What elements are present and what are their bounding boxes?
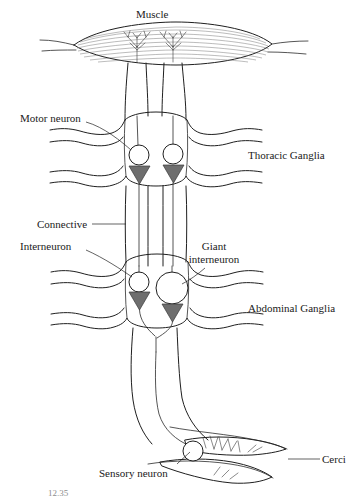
abdominal-ganglion	[51, 254, 263, 352]
interneuron-synapse	[129, 292, 150, 310]
label-cerci: Cerci	[322, 453, 346, 465]
thoracic-ganglion	[50, 112, 262, 187]
motor-neuron-soma-left	[129, 145, 149, 165]
label-giant-interneuron-line2: interneuron	[189, 253, 240, 265]
cercus-bristles-lower	[214, 467, 238, 479]
cerci-group	[148, 427, 287, 483]
neural-circuit-diagram: Muscle Motor neuron Thoracic Ganglia Con…	[0, 0, 359, 500]
sensory-neuron-soma	[183, 441, 203, 461]
label-giant-interneuron-line1: Giant	[202, 240, 226, 252]
muscle-group	[40, 22, 308, 65]
label-connective: Connective	[37, 218, 87, 230]
motor-neuron-soma-right	[163, 144, 183, 164]
motor-nerve-trunks	[125, 63, 186, 120]
neuromuscular-junction-right	[160, 31, 186, 62]
label-motor-neuron: Motor neuron	[20, 112, 81, 124]
interneuron-soma	[129, 272, 149, 292]
giant-interneuron-synapse	[162, 304, 183, 322]
giant-interneuron-soma	[156, 272, 188, 304]
muscle-tendon-right-lower	[268, 52, 306, 54]
label-sensory-neuron: Sensory neuron	[99, 467, 168, 479]
label-interneuron: Interneuron	[20, 240, 72, 252]
muscle-tendon-left	[40, 40, 74, 45]
figure-caption-number: 12.35	[48, 488, 69, 498]
figure-root: Muscle Motor neuron Thoracic Ganglia Con…	[0, 0, 359, 500]
label-muscle: Muscle	[136, 8, 169, 20]
muscle-tendon-right	[272, 41, 308, 44]
cercus-bristles	[203, 436, 262, 452]
leader-lines	[86, 122, 320, 464]
posterior-nerve-cord	[131, 328, 208, 446]
label-thoracic-ganglia: Thoracic Ganglia	[248, 149, 325, 161]
thoracic-ganglion-outline	[125, 112, 262, 134]
label-abdominal-ganglia: Abdominal Ganglia	[248, 302, 335, 314]
muscle-tendon-left-lower	[42, 50, 76, 51]
motor-synapse-right	[163, 165, 184, 183]
